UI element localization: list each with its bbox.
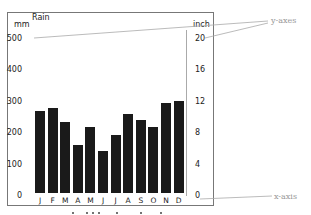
clipped-caption: [60, 208, 190, 215]
y-axes-annotation: y-axes: [271, 16, 296, 25]
x-axis-annotation: x-axis: [274, 192, 297, 201]
annotation-leader-lines: [0, 0, 311, 215]
rain-chart: Rain mm inch 0100200300400500 048121620 …: [0, 0, 311, 215]
